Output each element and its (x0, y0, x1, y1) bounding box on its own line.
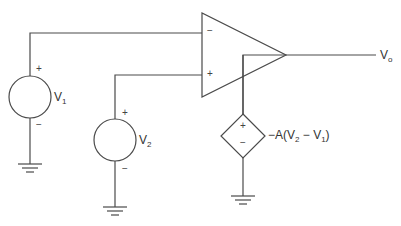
wire-dependent-to-output (243, 55, 286, 114)
ground-icon-dependent (231, 196, 255, 204)
dependent-plus-sign: + (240, 121, 246, 131)
wire-v1-to-inverting (30, 33, 202, 76)
v2-minus-sign: − (122, 164, 128, 174)
ground-icon-v1 (18, 164, 42, 172)
output-label: Vo (380, 49, 392, 64)
opamp-noninverting-sign: + (207, 69, 213, 79)
v2-source-circle (94, 119, 136, 161)
v1-source-circle (9, 76, 51, 118)
circuit-diagram (0, 0, 401, 226)
dependent-minus-sign: − (240, 138, 246, 148)
v1-label: V1 (54, 91, 66, 106)
ground-icon-v2 (103, 207, 127, 215)
v2-plus-sign: + (122, 108, 128, 118)
dependent-source-expression: −A(V2 − V1) (268, 129, 330, 144)
opamp-inverting-sign: − (207, 26, 213, 36)
v1-plus-sign: + (36, 64, 42, 74)
v1-minus-sign: − (36, 120, 42, 130)
v2-label: V2 (139, 134, 151, 149)
wire-v2-to-noninverting (115, 75, 202, 119)
